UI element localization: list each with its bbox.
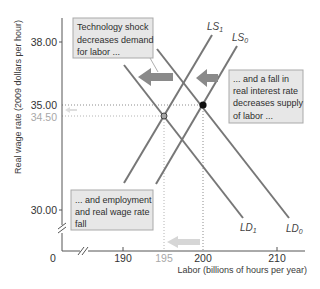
x-tick-label-0: 0 <box>50 252 56 264</box>
x-tick-label-210: 210 <box>268 252 286 264</box>
svg-text:... and employment: ... and employment <box>75 195 152 205</box>
new-equilibrium-dot <box>161 113 167 119</box>
svg-text:Technology shock: Technology shock <box>77 22 149 32</box>
x-axis-label: Labor (billions of hours per year) <box>177 265 307 275</box>
supply-note: ... and a fall in real interest rate dec… <box>229 70 304 123</box>
y-tick-label-30: 30.00 <box>31 204 57 216</box>
svg-text:fall: fall <box>75 219 87 229</box>
initial-equilibrium-dot <box>199 101 206 108</box>
svg-text:decreases demand: decreases demand <box>77 35 154 45</box>
svg-text:and real wage rate: and real wage rate <box>75 207 150 217</box>
svg-text:... and a fall in: ... and a fall in <box>233 74 289 84</box>
outcome-note: ... and employment and real wage rate fa… <box>71 190 153 230</box>
svg-text:for labor ...: for labor ... <box>77 47 120 57</box>
y-tick-label-38: 38.00 <box>31 36 57 48</box>
svg-text:real interest rate: real interest rate <box>233 86 298 96</box>
x-tick-label-190: 190 <box>114 252 132 264</box>
y-axis-label: Real wage rate (2009 dollars per hour) <box>13 20 23 174</box>
demand-note: Technology shock decreases demand for la… <box>73 18 154 58</box>
labor-market-chart: Real wage rate (2009 dollars per hour) 3… <box>0 0 320 289</box>
y-tick-label-35: 35.00 <box>31 99 57 111</box>
x-tick-label-195: 195 <box>155 252 173 264</box>
x-tick-label-200: 200 <box>194 252 212 264</box>
svg-text:of labor ...: of labor ... <box>233 111 273 121</box>
y-tick-label-34-50: 34.50 <box>31 111 57 123</box>
svg-text:decreases supply: decreases supply <box>233 98 304 108</box>
